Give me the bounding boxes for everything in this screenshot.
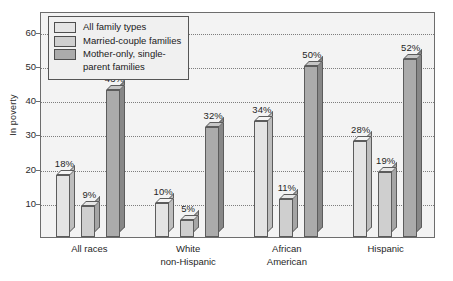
- y-axis-tick-label: 10: [10, 198, 36, 209]
- gridline: [41, 102, 434, 103]
- bar-front-face: [304, 66, 318, 237]
- bar: 5%: [180, 220, 194, 237]
- bar-front-face: [155, 203, 169, 237]
- y-axis-tick-label: 50: [10, 61, 36, 72]
- gridline: [41, 171, 434, 172]
- legend-swatch-icon: [54, 22, 76, 33]
- bar: 10%: [155, 203, 169, 237]
- bar: 34%: [254, 121, 268, 237]
- bar-side-face: [367, 131, 372, 232]
- bar-side-face: [120, 80, 125, 232]
- bar-side-face: [219, 117, 224, 232]
- bar-front-face: [279, 199, 293, 237]
- bar: 32%: [205, 127, 219, 237]
- bar-front-face: [378, 172, 392, 237]
- bar-side-face: [392, 162, 397, 232]
- x-axis-category-label: All races: [34, 243, 144, 256]
- bar-front-face: [180, 220, 194, 237]
- y-axis-tick-label: 30: [10, 129, 36, 140]
- bar-value-label: 10%: [146, 186, 180, 197]
- legend-label: Mother-only, single- parent families: [83, 48, 166, 73]
- bar-value-label: 34%: [245, 104, 279, 115]
- poverty-bar-chart: In poverty 102030405060 18%9%43%10%5%32%…: [0, 0, 453, 281]
- bar-front-face: [254, 121, 268, 237]
- bar: 18%: [56, 175, 70, 237]
- bar-side-face: [417, 49, 422, 232]
- bar-side-face: [318, 56, 323, 232]
- bar-front-face: [106, 90, 120, 237]
- y-axis-tick-label: 20: [10, 164, 36, 175]
- bar-front-face: [81, 206, 95, 237]
- legend-item: Mother-only, single- parent families: [54, 48, 181, 73]
- legend-item: Married-couple families: [54, 35, 181, 48]
- bar: 11%: [279, 199, 293, 237]
- bar-value-label: 50%: [295, 49, 329, 60]
- bar-value-label: 19%: [369, 155, 403, 166]
- x-axis-category-label: White non-Hispanic: [133, 243, 243, 268]
- legend-swatch-icon: [54, 49, 76, 60]
- bar: 50%: [304, 66, 318, 237]
- bar: 52%: [403, 59, 417, 237]
- y-axis-tick-label: 40: [10, 95, 36, 106]
- legend-item: All family types: [54, 21, 181, 34]
- bar-front-face: [353, 141, 367, 237]
- bar-value-label: 18%: [47, 158, 81, 169]
- bar-value-label: 52%: [394, 42, 428, 53]
- y-axis-tick-label: 60: [10, 27, 36, 38]
- bar: 43%: [106, 90, 120, 237]
- bar: 19%: [378, 172, 392, 237]
- bar-value-label: 9%: [72, 189, 106, 200]
- bar-value-label: 11%: [270, 182, 304, 193]
- bar-front-face: [56, 175, 70, 237]
- legend-swatch-icon: [54, 36, 76, 47]
- bar: 9%: [81, 206, 95, 237]
- bar-value-label: 5%: [171, 203, 205, 214]
- bar: 28%: [353, 141, 367, 237]
- x-axis-category-label: Hispanic: [331, 243, 441, 256]
- bar-value-label: 28%: [344, 124, 378, 135]
- chart-legend: All family types Married-couple families…: [48, 16, 189, 80]
- bar-value-label: 32%: [196, 110, 230, 121]
- bar-front-face: [205, 127, 219, 237]
- x-axis-category-label: African American: [232, 243, 342, 268]
- legend-label: Married-couple families: [83, 35, 181, 48]
- bar-front-face: [403, 59, 417, 237]
- bar-side-face: [268, 111, 273, 232]
- gridline: [41, 136, 434, 137]
- legend-label: All family types: [83, 21, 146, 34]
